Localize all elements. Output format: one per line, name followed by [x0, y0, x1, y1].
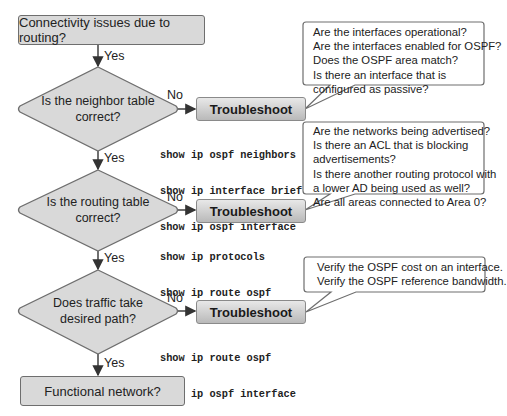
troubleshoot-button-2[interactable]: Troubleshoot: [196, 199, 306, 223]
no-label-1: No: [167, 88, 183, 102]
callout-line: configured as passive?: [313, 82, 501, 96]
end-label: Functional network?: [44, 384, 160, 399]
decision-1-line2: correct?: [28, 109, 168, 125]
no-label-2: No: [167, 190, 183, 204]
callout-line: advertisements?: [313, 152, 496, 166]
callout-line: Are all areas connected to Area 0?: [313, 195, 496, 209]
decision-2-text: Is the routing table correct?: [28, 194, 168, 226]
command: show ip ospf neighbors: [160, 149, 302, 161]
start-box: Connectivity issues due to routing?: [18, 15, 205, 45]
callout-line: Are the interfaces operational?: [313, 25, 501, 39]
end-box: Functional network?: [20, 376, 185, 406]
yes-label-2: Yes: [104, 251, 124, 265]
command: show ip protocols: [160, 251, 271, 263]
callout-line: Are the networks being advertised?: [313, 124, 496, 138]
yes-label-3: Yes: [104, 356, 124, 370]
decision-1-text: Is the neighbor table correct?: [28, 93, 168, 125]
callout-line: a lower AD being used as well?: [313, 181, 496, 195]
decision-3-line2: desired path?: [28, 311, 168, 327]
yes-label-start: Yes: [104, 49, 124, 63]
troubleshoot-button-1[interactable]: Troubleshoot: [196, 97, 306, 121]
callout-line: Does the OSPF area match?: [313, 53, 501, 67]
decision-2-line2: correct?: [28, 210, 168, 226]
troubleshoot-label-3: Troubleshoot: [210, 305, 292, 320]
decision-2-line1: Is the routing table: [28, 194, 168, 210]
callout-line: Is there an ACL that is blocking: [313, 138, 496, 152]
no-label-3: No: [167, 291, 183, 305]
callout-1-text: Are the interfaces operational? Are the …: [313, 25, 501, 96]
start-label: Connectivity issues due to routing?: [19, 15, 204, 45]
callout-line: Verify the OSPF reference bandwidth.: [317, 274, 507, 288]
decision-3-line1: Does traffic take: [28, 295, 168, 311]
decision-1-line1: Is the neighbor table: [28, 93, 168, 109]
troubleshoot-button-3[interactable]: Troubleshoot: [196, 300, 306, 324]
callout-2-text: Are the networks being advertised? Is th…: [313, 124, 496, 209]
callout-line: Is there an interface that is: [313, 68, 501, 82]
callout-line: Is there another routing protocol with: [313, 167, 496, 181]
decision-3-text: Does traffic take desired path?: [28, 295, 168, 327]
callout-3-text: Verify the OSPF cost on an interface. Ve…: [317, 260, 507, 288]
callout-line: Are the interfaces enabled for OSPF?: [313, 39, 501, 53]
callout-line: Verify the OSPF cost on an interface.: [317, 260, 507, 274]
troubleshoot-label-2: Troubleshoot: [210, 204, 292, 219]
command: show ip route ospf: [160, 352, 296, 364]
troubleshoot-label-1: Troubleshoot: [210, 102, 292, 117]
yes-label-1: Yes: [104, 151, 124, 165]
